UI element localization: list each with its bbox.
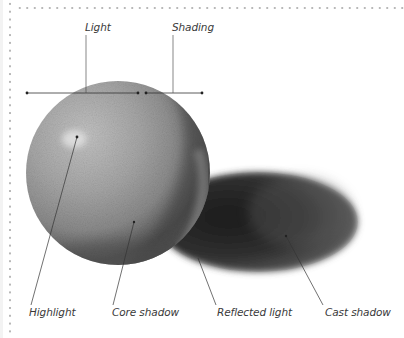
core-shadow-point bbox=[133, 221, 135, 223]
label-reflected-light: Reflected light bbox=[217, 306, 292, 318]
span-endpoint bbox=[137, 92, 140, 95]
highlight-point bbox=[76, 136, 79, 139]
span-endpoint bbox=[26, 92, 29, 95]
span-endpoint bbox=[145, 92, 148, 95]
label-cast-shadow: Cast shadow bbox=[325, 306, 391, 318]
label-shading: Shading bbox=[172, 21, 214, 33]
sphere-illustration bbox=[0, 0, 404, 338]
label-light: Light bbox=[85, 21, 111, 33]
span-endpoint bbox=[201, 92, 204, 95]
label-highlight: Highlight bbox=[29, 306, 76, 318]
cast-shadow-point bbox=[285, 235, 287, 237]
label-core-shadow: Core shadow bbox=[112, 306, 179, 318]
